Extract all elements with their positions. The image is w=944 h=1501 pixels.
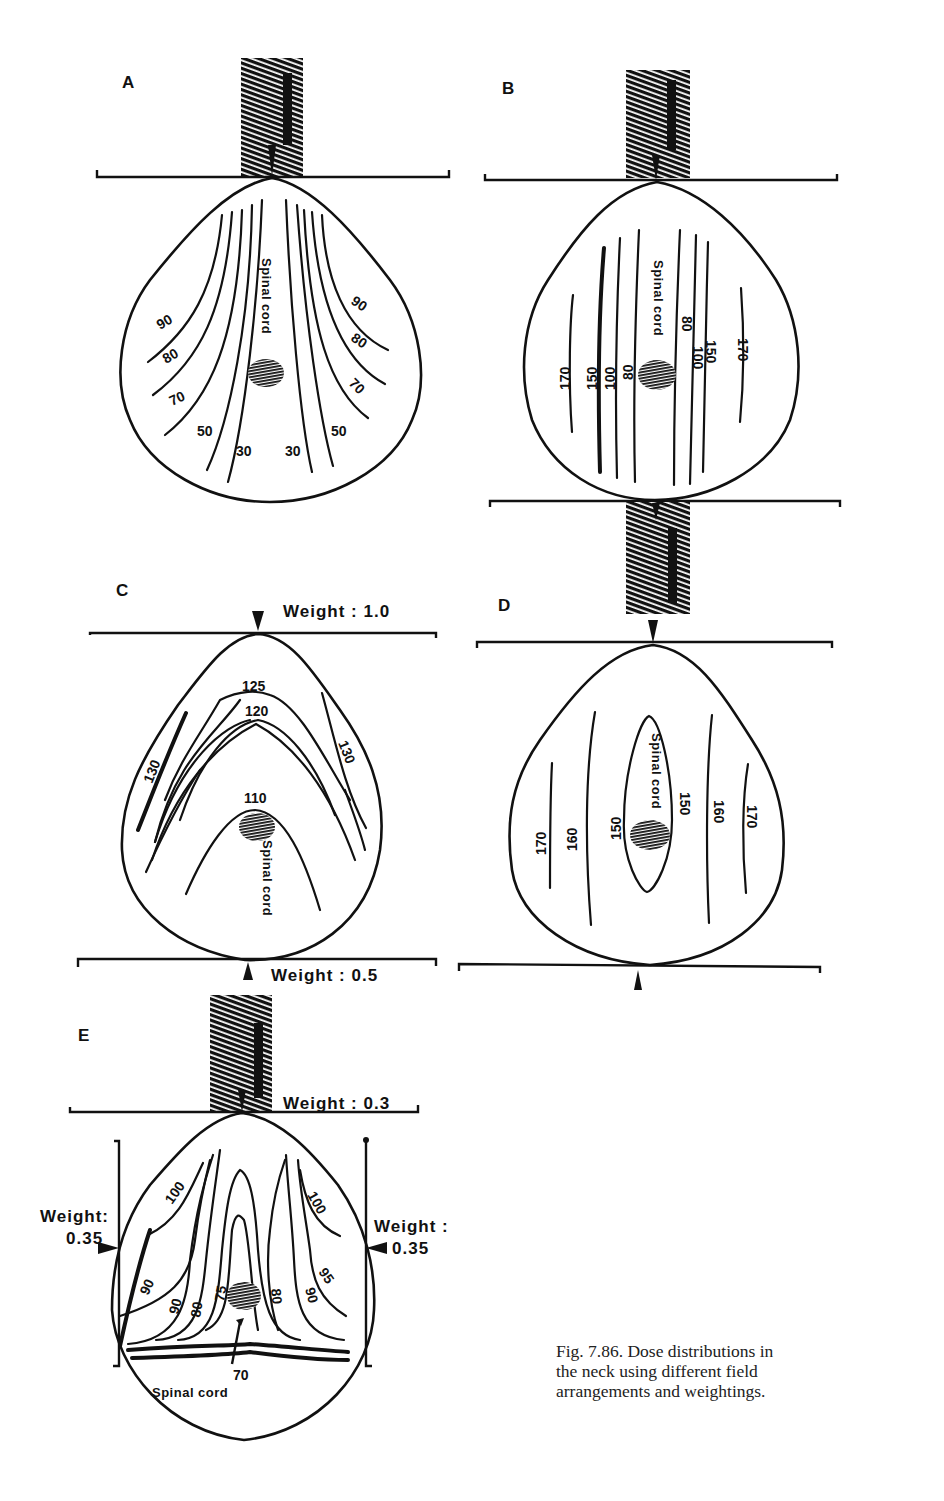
weight-label: Weight:	[40, 1207, 109, 1226]
isodose-label: 50	[197, 423, 213, 439]
beam-arrow-icon	[243, 962, 253, 980]
isodose-label: 170	[533, 831, 549, 855]
panel-d: D Spinal cord 170 160 150 150 160 170	[459, 596, 832, 990]
caption-line: arrangements and weightings.	[556, 1381, 944, 1401]
isodose-label: 150	[584, 366, 600, 390]
isodose-label: 170	[557, 366, 573, 390]
block-shield	[626, 502, 690, 614]
beam-arrow-icon	[252, 611, 264, 631]
isodose-label: 75	[211, 1284, 229, 1302]
weight-value: 0.35	[66, 1229, 103, 1248]
isodose-label: 30	[285, 443, 301, 459]
isodose-label: 70	[167, 388, 188, 409]
panel-letter-c: C	[116, 581, 128, 600]
spinal-cord-label: Spinal cord	[649, 733, 664, 809]
weight-label: Weight : 0.5	[271, 966, 378, 985]
dose-distribution-figure: A Spinal cord 90 80 70 50 30 90 80 70 50…	[0, 0, 944, 1501]
beam-arrow-icon	[648, 620, 658, 643]
isodose-label: 90	[165, 1296, 185, 1315]
panel-letter-a: A	[122, 73, 134, 92]
isodose-label: 30	[236, 443, 252, 459]
panel-letter-e: E	[78, 1026, 89, 1045]
spinal-cord-region	[630, 820, 670, 850]
isodose-label: 130	[335, 738, 359, 766]
spinal-cord-region	[638, 360, 676, 390]
spinal-cord-label: Spinal cord	[259, 258, 274, 334]
isodose-label: 80	[187, 1300, 205, 1318]
isodose-label: 150	[677, 792, 693, 816]
block-label-mark	[667, 80, 676, 150]
isodose-label: 80	[679, 316, 695, 332]
weight-label: Weight :	[374, 1217, 449, 1236]
isodose-label: 70	[346, 375, 368, 397]
weight-label: Weight : 0.3	[283, 1094, 390, 1113]
isodose-label: 95	[316, 1265, 338, 1287]
panel-b: B Spinal cord 170 150 100 80 80 100 150 …	[485, 70, 840, 614]
panel-letter-d: D	[498, 596, 510, 615]
panel-c: C Weight : 1.0 125 120 110 130 130 Spina…	[78, 581, 436, 985]
isodose-label: 70	[233, 1367, 249, 1383]
isodose-label: 170	[735, 338, 751, 362]
isodose-label: 80	[160, 345, 182, 367]
isodose-label: 160	[711, 800, 727, 824]
isodose-label: 90	[136, 1276, 157, 1297]
panel-letter-b: B	[502, 79, 514, 98]
isodose-label: 90	[302, 1286, 322, 1305]
isodose-label: 110	[244, 790, 267, 806]
field-bar-cap	[363, 1137, 369, 1143]
neck-outline	[120, 178, 420, 502]
figure-caption: Fig. 7.86. Dose distributions in the nec…	[556, 1341, 944, 1401]
spinal-cord-region	[248, 359, 284, 387]
isodose-label: 150	[703, 340, 719, 364]
spinal-cord-label: Spinal cord	[152, 1385, 228, 1400]
caption-line: the neck using different field	[556, 1361, 944, 1381]
field-bar-bottom	[78, 959, 436, 967]
spinal-cord-label: Spinal cord	[260, 840, 275, 916]
isodose-label: 120	[245, 703, 269, 719]
isodose-label: 170	[744, 805, 760, 829]
weight-value: 0.35	[392, 1239, 429, 1258]
field-bar-bottom	[459, 964, 820, 973]
isodose-label: 100	[602, 366, 618, 390]
neck-outline	[524, 182, 798, 500]
weight-label: Weight : 1.0	[283, 602, 390, 621]
block-label-mark	[254, 1023, 263, 1098]
spinal-cord-region	[239, 813, 275, 841]
isodose-label: 90	[348, 292, 370, 314]
isodose-label: 125	[242, 678, 266, 694]
isodose-label: 90	[154, 311, 176, 333]
isodose-label: 50	[331, 423, 347, 439]
isodose-label: 100	[304, 1189, 330, 1217]
spinal-cord-label: Spinal cord	[651, 260, 666, 336]
block-label-mark	[283, 73, 292, 145]
isodose-label: 160	[564, 827, 580, 851]
isodose-label: 80	[268, 1288, 285, 1305]
block-label-mark	[668, 528, 677, 603]
caption-line: Fig. 7.86. Dose distributions in	[556, 1341, 944, 1361]
isodose-label: 80	[620, 364, 636, 380]
panel-a: A Spinal cord 90 80 70 50 30 90 80 70 50…	[97, 58, 449, 502]
isodose-label: 80	[348, 329, 370, 351]
beam-arrow-icon	[634, 970, 642, 990]
isodose-label: 150	[608, 816, 624, 840]
spinal-cord-region	[227, 1282, 261, 1310]
panel-e: E Weight : 0.3 Weight: 0.35 Weight : 0.3…	[40, 995, 449, 1440]
